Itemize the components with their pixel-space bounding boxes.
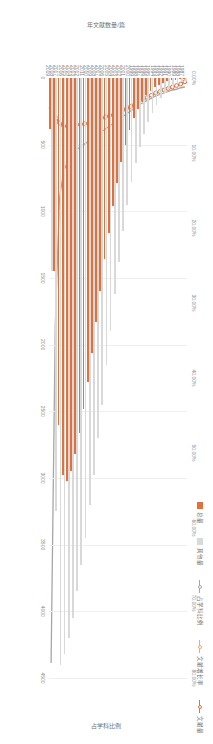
- bar-other: [83, 78, 85, 409]
- legend-label: 文献增长率: [196, 656, 204, 686]
- y-axis-tick-label: 4000: [40, 606, 46, 617]
- y-axis-tick-label: 2000: [40, 339, 46, 350]
- bar-total: [55, 78, 57, 511]
- bar-total: [168, 78, 170, 89]
- bar-total: [143, 78, 145, 134]
- legend-marker-dot: [198, 585, 202, 589]
- bar-other: [125, 78, 127, 145]
- y-axis-tick-label: 4500: [40, 672, 46, 683]
- y-axis-tick-label: 2500: [40, 406, 46, 417]
- bar-total: [185, 78, 187, 81]
- secondary-axis-tick-label: 0.00%: [191, 71, 197, 85]
- bar-other: [95, 78, 97, 322]
- bar-total: [93, 78, 95, 475]
- secondary-axis-tick-label: 20.00%: [191, 220, 197, 237]
- bar-total: [60, 78, 62, 665]
- bar-total: [106, 78, 108, 365]
- bar-other: [104, 78, 106, 259]
- legend-marker-dot: [198, 645, 202, 649]
- legend-item[interactable]: 文献增长率: [196, 640, 204, 686]
- bar-other: [154, 78, 156, 87]
- bar-total: [64, 78, 66, 654]
- legend-swatch-box-icon: [197, 538, 203, 545]
- bar-total: [147, 78, 149, 122]
- legend-label: 其他量: [196, 548, 204, 566]
- bar-other: [70, 78, 72, 471]
- secondary-axis-tick-label: 30.00%: [191, 295, 197, 312]
- bar-total: [118, 78, 120, 262]
- gridline: [49, 545, 187, 546]
- bar-other: [141, 78, 143, 101]
- secondary-axis-tick-label: 50.00%: [191, 445, 197, 462]
- bar-other: [166, 78, 168, 81]
- bar-total: [51, 78, 53, 271]
- bar-other: [137, 78, 139, 109]
- bar-total: [177, 78, 179, 84]
- bar-total: [172, 78, 174, 86]
- bar-other: [62, 78, 64, 475]
- bar-total: [101, 78, 103, 405]
- bar-other: [158, 78, 160, 85]
- secondary-axis-tick-label: 80.00%: [191, 670, 197, 687]
- secondary-axis-tick-label: 10.00%: [191, 145, 197, 162]
- y-axis-tick-label: 1500: [40, 272, 46, 283]
- bar-other: [133, 78, 135, 118]
- bar-other: [175, 78, 177, 80]
- secondary-axis-tick-label: 60.00%: [191, 520, 197, 537]
- bar-total: [131, 78, 133, 182]
- legend-label: 占学科比例: [196, 596, 204, 626]
- bar-other: [108, 78, 110, 233]
- legend-item[interactable]: 文献量: [196, 700, 204, 734]
- bar-other: [91, 78, 93, 353]
- legend-swatch-box-icon: [197, 502, 203, 509]
- plot-area: 0500100015002000250030003500400045000.00…: [49, 78, 187, 678]
- bar-other: [116, 78, 118, 183]
- bar-other: [49, 78, 51, 129]
- bar-total: [126, 78, 128, 205]
- bar-total: [97, 78, 99, 438]
- line-marker: [175, 84, 179, 88]
- secondary-axis-tick-label: 40.00%: [191, 370, 197, 387]
- legend-item[interactable]: 总量: [196, 502, 204, 524]
- y-axis-title: 年文献数量/篇: [88, 20, 126, 29]
- bar-total: [164, 78, 166, 93]
- bar-other: [162, 78, 164, 83]
- secondary-axis-tick-label: 70.00%: [191, 595, 197, 612]
- bar-total: [122, 78, 124, 231]
- y-axis-tick-label: 0: [40, 77, 46, 80]
- bar-other: [66, 78, 68, 481]
- bar-other: [87, 78, 89, 382]
- bar-total: [156, 78, 158, 105]
- line-marker: [179, 82, 183, 86]
- bar-total: [152, 78, 154, 113]
- bar-total: [85, 78, 87, 538]
- bar-total: [139, 78, 141, 147]
- legend-swatch-line-icon: [200, 580, 201, 593]
- bar-other: [129, 78, 131, 130]
- bar-other: [150, 78, 152, 91]
- legend-item[interactable]: 其他量: [196, 538, 204, 566]
- screenshot-frame: 年文献数量/篇 占学科比例 总量其他量占学科比例文献增长率文献量 0500100…: [0, 0, 213, 744]
- bar-total: [72, 78, 74, 618]
- bar-other: [171, 78, 173, 80]
- chart-legend: 总量其他量占学科比例文献增长率文献量: [189, 502, 211, 734]
- gridline: [49, 678, 187, 679]
- bar-other: [145, 78, 147, 95]
- bar-other: [53, 78, 55, 271]
- rotated-chart-wrapper: 年文献数量/篇 占学科比例 总量其他量占学科比例文献增长率文献量 0500100…: [0, 0, 213, 744]
- legend-item[interactable]: 占学科比例: [196, 580, 204, 626]
- y-axis-tick-label: 1000: [40, 206, 46, 217]
- y-axis-tick-label: 500: [40, 140, 46, 148]
- bar-other: [58, 78, 60, 425]
- legend-swatch-line-icon: [200, 640, 201, 653]
- bar-total: [135, 78, 137, 163]
- bar-total: [76, 78, 78, 591]
- bar-other: [183, 78, 185, 79]
- legend-label: 总量: [196, 512, 204, 524]
- bar-total: [114, 78, 116, 294]
- legend-marker-dot: [198, 705, 202, 709]
- bar-total: [80, 78, 82, 565]
- bar-total: [110, 78, 112, 331]
- legend-label: 文献量: [196, 716, 204, 734]
- category-label: 2019: [45, 65, 51, 76]
